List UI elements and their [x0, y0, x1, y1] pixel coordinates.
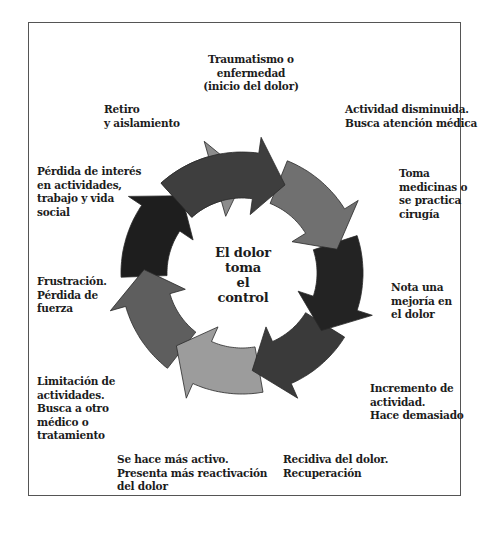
step-label-actividad-disminuida: Actividad disminuida. Busca atención méd… [345, 103, 477, 130]
step-label-limitacion: Limitación de actividades. Busca a otro … [37, 375, 115, 443]
step-label-recidiva: Recidiva del dolor. Recuperación [283, 453, 388, 480]
step-label-toma-medicinas: Toma medicinas o se practica cirugía [399, 167, 467, 221]
center-title: El dolor toma el control [205, 245, 281, 305]
step-label-perdida-interes: Pérdida de interés en actividades, traba… [37, 165, 141, 219]
cycle-arrow-2 [270, 161, 358, 250]
step-label-retiro: Retiro y aislamiento [104, 103, 180, 130]
step-label-nota-mejoria: Nota una mejoría en el dolor [391, 281, 452, 322]
step-label-incremento-actividad: Incremento de actividad. Hace demasiado [370, 382, 464, 423]
step-label-mas-activo: Se hace más activo. Presenta más reactiv… [117, 453, 267, 494]
step-label-frustracion: Frustración. Pérdida de fuerza [37, 275, 107, 316]
step-label-trauma: Traumatismo o enfermedad (inicio del dol… [203, 53, 299, 94]
